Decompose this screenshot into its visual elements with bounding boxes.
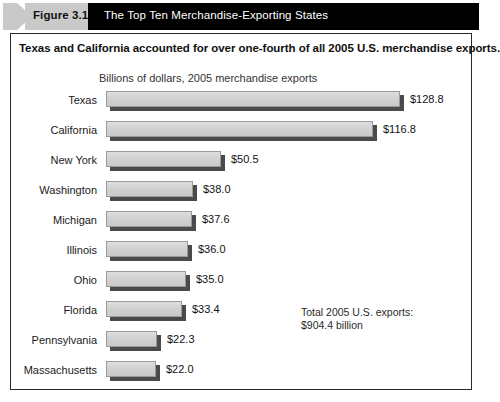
bar-category-label: Washington: [11, 184, 97, 196]
bar: [106, 151, 226, 173]
bar: [106, 361, 161, 383]
bar-value-label: $35.0: [196, 273, 224, 285]
bar-row: Texas$128.8: [11, 90, 471, 120]
bar-category-label: Texas: [11, 94, 97, 106]
total-exports-note: Total 2005 U.S. exports: $904.4 billion: [301, 306, 413, 332]
bar-value-label: $22.0: [166, 363, 194, 375]
bar-category-label: New York: [11, 154, 97, 166]
bar: [106, 331, 162, 353]
bar-row: New York$50.5: [11, 150, 471, 180]
bar-face: [106, 241, 188, 257]
bar-category-label: Massachusetts: [11, 364, 97, 376]
banner-title-bar: The Top Ten Merchandise-Exporting States: [88, 3, 479, 30]
bar-value-label: $38.0: [203, 183, 231, 195]
bar-row: Illinois$36.0: [11, 240, 471, 270]
bar-face: [106, 181, 193, 197]
bar-category-label: Michigan: [11, 214, 97, 226]
bar-face: [106, 361, 156, 377]
bar-face: [106, 121, 373, 137]
bar-value-label: $36.0: [198, 243, 226, 255]
bar: [106, 91, 405, 113]
figure-title: The Top Ten Merchandise-Exporting States: [104, 9, 328, 21]
figure-number-label: Figure 3.1: [33, 9, 88, 21]
bar: [106, 211, 197, 233]
bar-category-label: Pennsylvania: [11, 334, 97, 346]
bar-chart-plot: Texas$128.8California$116.8New York$50.5…: [11, 90, 471, 390]
bar-row: Washington$38.0: [11, 180, 471, 210]
bar: [106, 181, 198, 203]
bar-row: Michigan$37.6: [11, 210, 471, 240]
bar-category-label: Illinois: [11, 244, 97, 256]
bar-row: Massachusetts$22.0: [11, 360, 471, 390]
bar-face: [106, 91, 400, 107]
bar-value-label: $22.3: [167, 333, 195, 345]
bar-value-label: $37.6: [202, 213, 230, 225]
bar: [106, 301, 187, 323]
bar-value-label: $33.4: [192, 303, 220, 315]
bar-face: [106, 211, 192, 227]
bar: [106, 121, 378, 143]
bar: [106, 241, 193, 263]
bar-category-label: Ohio: [11, 274, 97, 286]
figure-banner: Figure 3.1 The Top Ten Merchandise-Expor…: [3, 3, 479, 30]
bar-category-label: California: [11, 124, 97, 136]
bar-value-label: $116.8: [383, 123, 416, 135]
bar-category-label: Florida: [11, 304, 97, 316]
figure-body: Texas and California accounted for over …: [10, 33, 472, 390]
bar-row: Ohio$35.0: [11, 270, 471, 300]
figure-headline: Texas and California accounted for over …: [19, 42, 500, 54]
bar-face: [106, 151, 221, 167]
bar-face: [106, 301, 182, 317]
bar-face: [106, 271, 186, 287]
bar-row: Pennsylvania$22.3: [11, 330, 471, 360]
bar-value-label: $50.5: [231, 153, 259, 165]
bar-face: [106, 331, 157, 347]
bar-value-label: $128.8: [410, 93, 444, 105]
bar: [106, 271, 191, 293]
chart-subtitle: Billions of dollars, 2005 merchandise ex…: [99, 72, 317, 84]
bar-row: California$116.8: [11, 120, 471, 150]
